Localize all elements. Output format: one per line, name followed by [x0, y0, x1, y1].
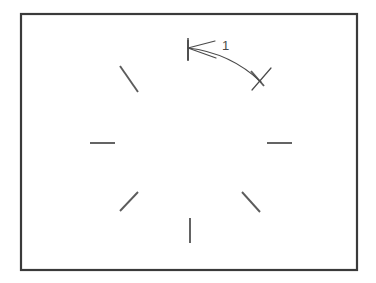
arrowhead-upper-barb: [188, 41, 215, 48]
dimension-label-1: 1: [222, 38, 229, 53]
dimension-leader-group: [188, 38, 271, 90]
technical-drawing-canvas: 1: [0, 0, 376, 283]
dimension-end-tick: [252, 68, 271, 90]
tick-lower-right: [242, 192, 260, 212]
tick-lower-left: [120, 192, 138, 211]
radial-tick-group: [90, 40, 292, 243]
figure-root: 1: [0, 0, 376, 283]
tick-upper-left: [120, 66, 138, 92]
dimension-arc-curve: [188, 48, 261, 82]
border-rectangle: [21, 14, 357, 270]
